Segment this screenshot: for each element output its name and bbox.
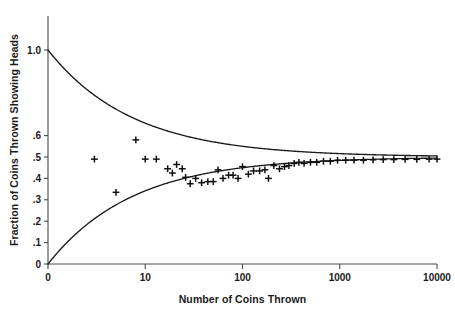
data-point-marker bbox=[113, 189, 120, 196]
y-tick-label: .5 bbox=[33, 152, 42, 163]
data-point-marker bbox=[164, 165, 171, 172]
data-point-marker bbox=[198, 179, 205, 186]
data-point-marker bbox=[142, 156, 149, 163]
data-point-marker bbox=[153, 156, 160, 163]
x-tick-label: 10 bbox=[140, 272, 152, 283]
data-point-marker bbox=[320, 158, 327, 165]
data-point-marker bbox=[132, 136, 139, 143]
data-point-marker bbox=[220, 175, 227, 182]
y-tick-label: .6 bbox=[33, 130, 42, 141]
data-point-marker bbox=[239, 163, 246, 170]
data-point-marker bbox=[179, 165, 186, 172]
data-point-marker bbox=[426, 156, 433, 163]
y-tick-label: 0 bbox=[35, 259, 41, 270]
y-tick-label: 1.0 bbox=[27, 45, 41, 56]
y-axis-title: Fraction of Coins Thrown Showing Heads bbox=[8, 34, 20, 246]
data-point-marker bbox=[245, 171, 252, 178]
data-point-marker bbox=[313, 159, 320, 166]
data-point-marker bbox=[413, 156, 420, 163]
data-point-marker bbox=[434, 156, 441, 163]
x-axis-title: Number of Coins Thrown bbox=[179, 293, 307, 305]
x-tick-label: 10000 bbox=[423, 272, 451, 283]
data-point-marker bbox=[334, 157, 341, 164]
data-point-marker bbox=[327, 158, 334, 165]
data-point-marker bbox=[262, 166, 269, 173]
scatter-plot-svg: 0.1.2.3.4.5.61.0010100100010000 Number o… bbox=[0, 0, 455, 318]
data-markers-group bbox=[91, 136, 440, 195]
data-point-marker bbox=[230, 172, 237, 179]
data-point-marker bbox=[169, 170, 176, 177]
data-point-marker bbox=[351, 157, 358, 164]
envelope-curve-upper-bound bbox=[48, 50, 437, 156]
data-point-marker bbox=[210, 178, 217, 185]
data-point-marker bbox=[360, 157, 367, 164]
y-tick-label: .4 bbox=[33, 173, 42, 184]
data-point-marker bbox=[370, 156, 377, 163]
data-point-marker bbox=[342, 157, 349, 164]
data-point-marker bbox=[256, 168, 263, 175]
data-point-marker bbox=[265, 175, 272, 182]
envelope-curve-lower-bound bbox=[48, 158, 437, 264]
y-tick-label: .2 bbox=[33, 216, 42, 227]
data-point-marker bbox=[187, 180, 194, 187]
y-tick-label: .1 bbox=[33, 237, 42, 248]
data-point-marker bbox=[235, 175, 242, 182]
y-tick-label: .3 bbox=[33, 194, 42, 205]
data-point-marker bbox=[307, 159, 314, 166]
data-point-marker bbox=[402, 156, 409, 163]
data-point-marker bbox=[182, 174, 189, 181]
data-point-marker bbox=[380, 156, 387, 163]
envelope-curves-group bbox=[48, 50, 437, 264]
data-point-marker bbox=[301, 160, 308, 167]
data-point-marker bbox=[390, 156, 397, 163]
data-point-marker bbox=[250, 168, 257, 175]
axes-group: 0.1.2.3.4.5.61.0010100100010000 bbox=[27, 16, 451, 283]
x-tick-label: 100 bbox=[234, 272, 251, 283]
x-tick-label: 1000 bbox=[329, 272, 352, 283]
data-point-marker bbox=[270, 162, 277, 169]
data-point-marker bbox=[295, 159, 302, 166]
x-tick-label: 0 bbox=[45, 272, 51, 283]
data-point-marker bbox=[173, 161, 180, 168]
data-point-marker bbox=[91, 156, 98, 163]
chart-figure: 0.1.2.3.4.5.61.0010100100010000 Number o… bbox=[0, 0, 455, 318]
